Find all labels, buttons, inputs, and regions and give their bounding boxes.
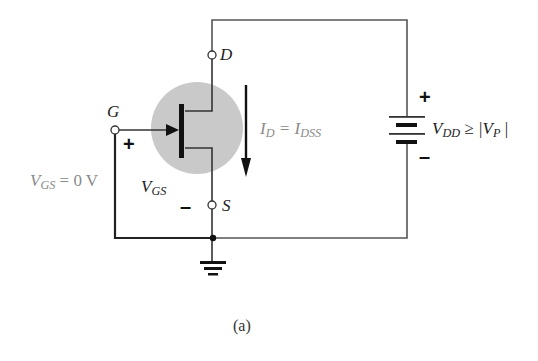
vdd-label: VDD ≥ |VP | <box>432 120 508 140</box>
battery-plus-sign: + <box>419 87 431 107</box>
source-label: S <box>222 197 231 214</box>
wire-right-bottom <box>213 142 407 238</box>
vdd-rest: ≥ |V <box>460 119 493 138</box>
vdd-sub: DD <box>442 126 460 140</box>
vgs-condition-main: V <box>30 171 40 190</box>
vdd-main: V <box>432 119 442 138</box>
wire-drain-top <box>212 20 407 117</box>
gate-terminal <box>111 126 119 134</box>
drain-current-label: ID = IDSS <box>260 120 321 140</box>
id-sub: D <box>266 126 275 140</box>
channel-highlight-circle <box>151 82 243 174</box>
vgs-condition-label: VGS = 0 V <box>30 172 98 192</box>
id-sub2: DSS <box>300 126 321 140</box>
vgs-sub: GS <box>151 184 166 198</box>
battery-icon <box>389 116 425 144</box>
vgs-condition-sub: GS <box>40 178 55 192</box>
vdd-end: | <box>500 119 508 138</box>
drain-label: D <box>220 46 232 63</box>
gate-plus-sign: + <box>123 134 135 154</box>
vgs-label: VGS <box>141 178 166 198</box>
figure-caption: (a) <box>233 318 251 334</box>
source-minus-sign: – <box>180 196 191 216</box>
vgs-main: V <box>141 177 151 196</box>
battery-minus-sign: – <box>419 146 430 166</box>
vgs-condition-rest: = 0 V <box>55 171 98 190</box>
ground-icon <box>200 261 226 276</box>
circuit-figure: D G S + – + – VGS = 0 V VGS ID = IDSS VD… <box>0 0 538 361</box>
gate-label: G <box>107 103 119 120</box>
id-mid: = I <box>275 119 301 138</box>
jfet-channel-bar <box>179 104 184 158</box>
drain-terminal <box>208 51 216 59</box>
source-terminal <box>208 201 216 209</box>
ground-junction-dot <box>210 235 216 241</box>
